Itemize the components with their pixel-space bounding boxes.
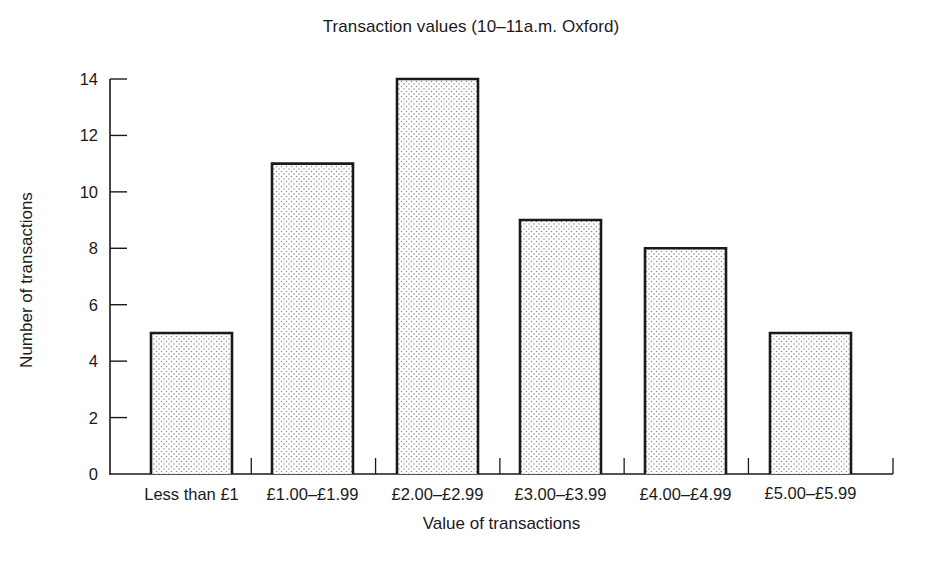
bar-3	[520, 220, 601, 474]
x-axis-label: Value of transactions	[110, 514, 893, 534]
y-tick-label: 10	[80, 183, 98, 201]
bar-2	[397, 79, 478, 474]
y-tick-label: 6	[89, 296, 98, 314]
bar-0	[151, 333, 232, 474]
x-category-label: £2.00–£2.99	[392, 485, 484, 503]
y-tick-label: 8	[89, 239, 98, 257]
y-tick-label: 4	[89, 352, 98, 370]
bar-1	[272, 164, 353, 474]
x-category-label: £3.00–£3.99	[515, 485, 607, 503]
bar-4	[645, 248, 726, 474]
bar-5	[770, 333, 851, 474]
y-tick-label: 2	[89, 409, 98, 427]
y-axis-label: Number of transactions	[17, 192, 37, 368]
x-category-label: £5.00–£5.99	[765, 484, 857, 502]
category-labels: Less than £1£1.00–£1.99£2.00–£2.99£3.00–…	[144, 484, 856, 503]
y-axis: 02468101214	[80, 70, 127, 483]
x-category-label: £4.00–£4.99	[640, 485, 732, 503]
bars-group	[151, 79, 851, 474]
x-category-label: £1.00–£1.99	[267, 485, 359, 503]
x-category-label: Less than £1	[144, 485, 239, 503]
y-tick-label: 14	[80, 70, 98, 88]
y-tick-label: 0	[89, 465, 98, 483]
plot-area: 02468101214 Less than £1£1.00–£1.99£2.00…	[0, 0, 942, 577]
y-tick-label: 12	[80, 126, 98, 144]
